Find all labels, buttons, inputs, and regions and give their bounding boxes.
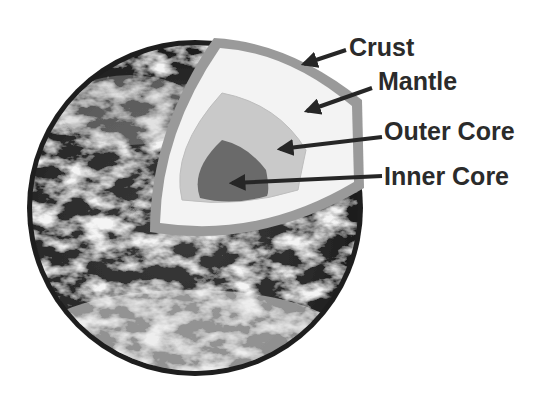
- inner-core-label: Inner Core: [384, 162, 509, 190]
- mantle-label: Mantle: [378, 67, 457, 95]
- crust-label: Crust: [349, 33, 415, 61]
- earth-layers-diagram: Crust Mantle Outer Core Inner Core: [0, 0, 552, 398]
- crust-arrow: [304, 50, 346, 64]
- outer-core-label: Outer Core: [384, 117, 515, 145]
